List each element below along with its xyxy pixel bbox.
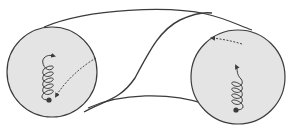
wormhole-diagram <box>0 0 293 131</box>
left-start-dot <box>46 97 51 102</box>
right-start-dot <box>233 107 238 112</box>
tube-top-edge <box>44 10 252 30</box>
